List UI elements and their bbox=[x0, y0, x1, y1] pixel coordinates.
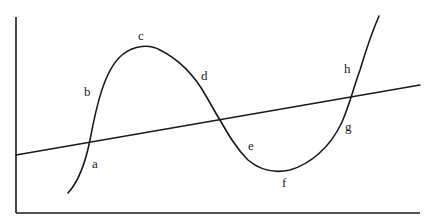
label-c: c bbox=[138, 28, 144, 43]
label-b: b bbox=[84, 84, 91, 99]
label-d: d bbox=[201, 68, 208, 83]
label-g: g bbox=[345, 119, 352, 134]
label-f: f bbox=[282, 175, 287, 190]
curve bbox=[68, 16, 379, 193]
straight-line bbox=[16, 85, 420, 155]
diagram-canvas: a b c d e f g h bbox=[0, 0, 436, 223]
label-e: e bbox=[248, 138, 254, 153]
label-h: h bbox=[344, 61, 351, 76]
label-a: a bbox=[92, 156, 98, 171]
